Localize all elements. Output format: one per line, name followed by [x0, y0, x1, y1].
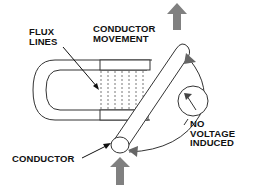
- movement-arrow-up-bottom: [110, 157, 130, 185]
- conductor-movement-label-line2: MOVEMENT: [93, 34, 155, 44]
- no-voltage-leader-line: [184, 119, 188, 125]
- flux-leader-arrowhead: [93, 83, 99, 90]
- magnet-inner: [46, 70, 147, 110]
- conductor-end: [111, 137, 129, 153]
- conductor-leader-arrowhead: [103, 143, 111, 149]
- no-voltage-induced-label: NO VOLTAGE INDUCED: [190, 119, 235, 148]
- flux-lines-label-line2: LINES: [29, 37, 57, 47]
- arc-arrowhead-top: [184, 53, 196, 64]
- flux-lines: [101, 71, 143, 109]
- flux-leader-line: [63, 47, 98, 88]
- voltmeter-icon: [178, 86, 208, 116]
- flux-lines-label: FLUX LINES: [29, 27, 57, 46]
- movement-arrow-up-top: [167, 3, 187, 30]
- conductor-leader-line: [82, 145, 108, 158]
- conductor-movement-label: CONDUCTOR MOVEMENT: [93, 24, 155, 43]
- magnet-top-pole: [100, 60, 150, 70]
- conductor-label: CONDUCTOR: [12, 154, 74, 164]
- no-voltage-label-line3: INDUCED: [190, 138, 235, 148]
